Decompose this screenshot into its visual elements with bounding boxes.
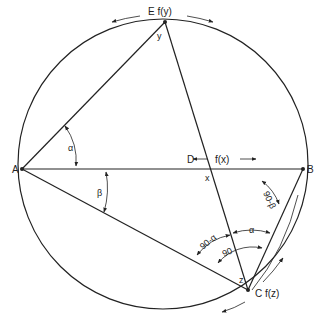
label-a: A [12,164,19,175]
label-c: C f(z) [255,288,279,299]
arrow-c-up [263,258,283,282]
angle-ninety-label: 90 [221,246,234,259]
angle-beta-label: β [97,188,102,198]
chord-ec [165,22,248,290]
label-b: B [307,164,314,175]
arrow-c-down [222,302,245,312]
circumcircle [18,19,308,309]
chord-bc [248,169,303,290]
label-y: y [157,31,162,41]
point-c [246,288,250,292]
angle-alpha-a-label: α [68,143,73,153]
label-fx: f(x) [215,154,229,165]
label-d: D [187,154,194,165]
angle-90-minus-alpha-label: 90-α [198,232,218,251]
angle-alpha-c-label: α [249,225,254,235]
chord-ae [22,22,165,169]
geometry-diagram: α β 90-β α 90 90-α A B E f(y) y D f(x) x… [0,0,325,320]
label-e: E f(y) [148,6,172,17]
point-a [20,167,24,171]
inner-arc-c [252,195,298,290]
point-e [163,20,167,24]
chord-ac [22,169,248,290]
point-b [301,167,305,171]
label-z: z [239,275,244,285]
angle-90-minus-beta-label: 90-β [261,190,278,211]
angle-beta-arrow [104,172,107,212]
label-x: x [205,173,210,183]
